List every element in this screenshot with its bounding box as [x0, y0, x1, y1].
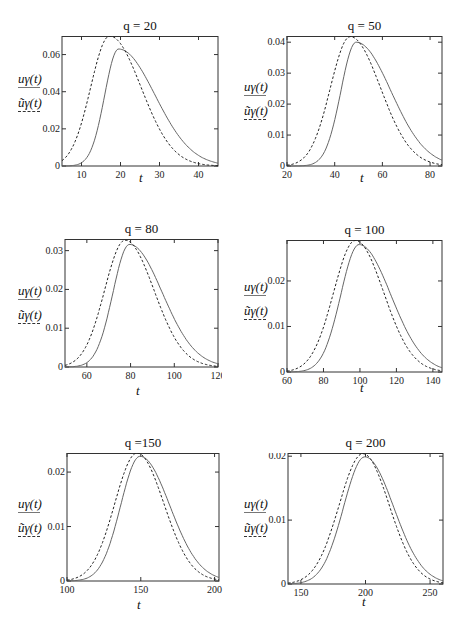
- legend: uγ(t)ũγ(t): [244, 497, 268, 545]
- legend-label: uγ(t): [18, 496, 42, 511]
- legend-item-u-tilde-gamma: ũγ(t): [244, 304, 268, 320]
- x-tick-label: 80: [318, 375, 328, 386]
- legend-item-u-gamma: uγ(t): [18, 72, 42, 88]
- y-tick-label: 0: [280, 160, 285, 171]
- y-tick-label: 0.02: [43, 123, 61, 134]
- series-u-gamma-line: [67, 456, 219, 581]
- plot-frame: [287, 241, 442, 373]
- y-tick-label: 0.06: [43, 49, 61, 60]
- x-tick-label: 100: [167, 370, 182, 381]
- legend-item-u-tilde-gamma: ũγ(t): [18, 521, 42, 537]
- series-u-tilde-gamma-line: [67, 453, 219, 580]
- series-u-gamma-line: [65, 244, 218, 367]
- y-tick-label: 0: [58, 361, 63, 372]
- x-axis-label: t: [136, 383, 140, 399]
- y-tick-label: 0: [60, 575, 65, 586]
- legend-label: ũγ(t): [244, 520, 268, 535]
- legend-item-u-tilde-gamma: ũγ(t): [18, 308, 42, 324]
- y-tick-label: 0.02: [268, 275, 286, 286]
- x-tick-label: 80: [425, 169, 435, 180]
- dashed-line-swatch: [18, 111, 40, 112]
- dashed-line-swatch: [18, 323, 40, 324]
- legend-label: ũγ(t): [18, 520, 42, 535]
- dashed-line-swatch: [244, 119, 266, 120]
- plot-area: 608010012014000.010.02: [247, 240, 446, 388]
- dashed-line-swatch: [18, 536, 40, 537]
- y-tick-label: 0.01: [46, 322, 64, 333]
- plot-frame: [65, 240, 218, 368]
- x-tick-label: 120: [211, 370, 223, 381]
- plot-frame: [287, 37, 442, 167]
- x-tick-label: 60: [377, 169, 387, 180]
- solid-line-swatch: [18, 87, 40, 88]
- series-u-tilde-gamma-line: [287, 241, 442, 372]
- legend-label: ũγ(t): [244, 303, 268, 318]
- plot-area: 15020025000.010.02: [248, 453, 447, 600]
- y-tick-label: 0.02: [48, 466, 66, 477]
- y-tick-label: 0.04: [43, 86, 61, 97]
- legend-label: ũγ(t): [18, 95, 42, 110]
- y-tick-label: 0.03: [46, 245, 64, 256]
- series-u-gamma-line: [287, 245, 442, 372]
- legend-label: uγ(t): [244, 79, 268, 94]
- plot-area: 1020304000.020.040.06: [22, 36, 222, 182]
- series-u-tilde-gamma-line: [62, 36, 218, 166]
- legend-label: uγ(t): [244, 496, 268, 511]
- y-tick-label: 0.01: [268, 129, 286, 140]
- legend-label: uγ(t): [18, 71, 42, 86]
- x-axis-label: t: [137, 597, 141, 613]
- legend-item-u-gamma: uγ(t): [244, 80, 268, 96]
- x-tick-label: 30: [155, 169, 165, 180]
- legend-label: ũγ(t): [18, 307, 42, 322]
- x-axis-label: t: [360, 380, 364, 396]
- solid-line-swatch: [244, 95, 266, 96]
- x-axis-label: t: [139, 170, 143, 186]
- dashed-line-swatch: [244, 536, 266, 537]
- series-u-tilde-gamma-line: [65, 240, 218, 366]
- legend: uγ(t)ũγ(t): [18, 497, 42, 545]
- x-tick-label: 140: [425, 375, 440, 386]
- dashed-line-swatch: [244, 319, 266, 320]
- x-tick-label: 120: [389, 375, 404, 386]
- solid-line-swatch: [244, 512, 266, 513]
- solid-line-swatch: [18, 299, 40, 300]
- plot-frame: [62, 37, 218, 167]
- plot-frame: [288, 454, 443, 585]
- legend: uγ(t)ũγ(t): [18, 72, 42, 120]
- y-tick-label: 0: [281, 578, 286, 589]
- x-axis-label: t: [360, 170, 364, 186]
- solid-line-swatch: [244, 295, 266, 296]
- x-tick-label: 150: [133, 584, 148, 595]
- legend-item-u-gamma: uγ(t): [244, 280, 268, 296]
- chart-title: q = 100: [335, 222, 395, 238]
- legend-item-u-tilde-gamma: ũγ(t): [244, 104, 268, 120]
- x-tick-label: 200: [207, 584, 222, 595]
- plot-area: 608010012000.010.020.03: [25, 239, 222, 383]
- plot-area: 2040608000.010.020.030.04: [247, 36, 446, 182]
- x-tick-label: 250: [423, 587, 438, 598]
- chart-title: q = 200: [336, 435, 396, 451]
- y-tick-label: 0.03: [268, 67, 286, 78]
- legend-item-u-tilde-gamma: ũγ(t): [244, 521, 268, 537]
- chart-title: q =150: [113, 435, 173, 451]
- x-tick-label: 20: [116, 169, 126, 180]
- y-tick-label: 0.01: [48, 521, 66, 532]
- y-tick-label: 0: [280, 366, 285, 377]
- y-tick-label: 0.04: [268, 36, 286, 47]
- x-axis-label: t: [362, 594, 366, 610]
- legend-item-u-gamma: uγ(t): [244, 497, 268, 513]
- x-tick-label: 150: [293, 587, 308, 598]
- x-tick-label: 80: [126, 370, 136, 381]
- x-tick-label: 40: [194, 169, 204, 180]
- x-tick-label: 40: [330, 169, 340, 180]
- series-u-gamma-line: [288, 457, 443, 584]
- legend-label: uγ(t): [18, 283, 42, 298]
- legend: uγ(t)ũγ(t): [244, 280, 268, 328]
- y-tick-label: 0.02: [268, 98, 286, 109]
- x-tick-label: 10: [77, 169, 87, 180]
- legend-item-u-gamma: uγ(t): [18, 284, 42, 300]
- y-tick-label: 0.02: [46, 283, 64, 294]
- y-tick-label: 0.01: [268, 320, 286, 331]
- plot-area: 10015020000.010.02: [27, 453, 223, 597]
- series-u-tilde-gamma-line: [287, 37, 442, 166]
